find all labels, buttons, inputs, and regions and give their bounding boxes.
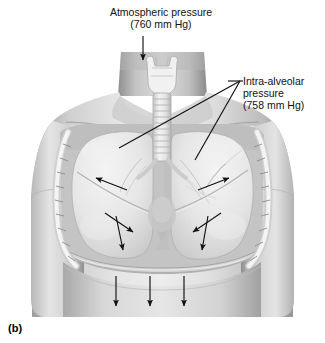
atmospheric-pressure-line1: Atmospheric pressure bbox=[86, 6, 236, 18]
atmospheric-pressure-line2: (760 mm Hg) bbox=[86, 18, 236, 30]
intra-alveolar-line3: (758 mm Hg) bbox=[243, 99, 304, 111]
trachea bbox=[153, 93, 171, 161]
panel-label: (b) bbox=[8, 322, 22, 334]
intra-alveolar-pressure-label: Intra-alveolar pressure (758 mm Hg) bbox=[243, 75, 304, 111]
respiration-pressure-diagram bbox=[0, 0, 325, 343]
intra-alveolar-line1: Intra-alveolar bbox=[243, 75, 304, 87]
atmospheric-pressure-label: Atmospheric pressure (760 mm Hg) bbox=[86, 6, 236, 30]
intra-alveolar-line2: pressure bbox=[243, 87, 304, 99]
